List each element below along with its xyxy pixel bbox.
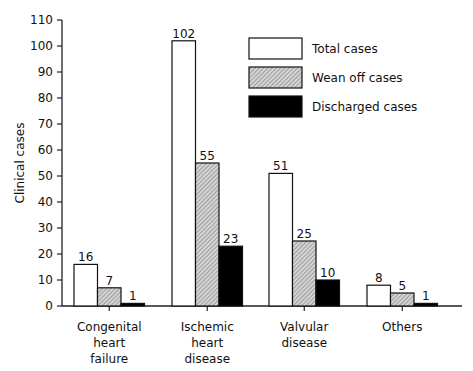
legend-item: Total cases bbox=[249, 38, 378, 59]
category-label: Valvular bbox=[280, 320, 328, 334]
y-tick-label: 10 bbox=[38, 273, 53, 287]
y-axis: 0102030405060708090100110 bbox=[30, 13, 62, 313]
value-label: 10 bbox=[320, 266, 335, 280]
value-label: 23 bbox=[223, 232, 238, 246]
bar-group: 1025523 bbox=[172, 27, 243, 306]
category-label: Others bbox=[382, 320, 422, 334]
y-tick-label: 60 bbox=[38, 143, 53, 157]
value-label: 8 bbox=[375, 271, 383, 285]
bar-wean-off-cases bbox=[391, 293, 415, 306]
legend-item: Discharged cases bbox=[249, 96, 417, 117]
bar-wean-off-cases bbox=[293, 241, 317, 306]
value-label: 16 bbox=[78, 250, 93, 264]
bar-discharged-cases bbox=[219, 246, 243, 306]
category-label: Congenital bbox=[77, 320, 142, 334]
bar-total-cases bbox=[269, 173, 293, 306]
category-label: heart bbox=[191, 336, 223, 350]
bar-total-cases bbox=[172, 41, 196, 306]
y-axis-title: Clinical cases bbox=[13, 123, 27, 204]
category-label: disease bbox=[281, 336, 327, 350]
legend-swatch bbox=[249, 67, 302, 88]
bar-discharged-cases bbox=[414, 303, 438, 306]
bar-total-cases bbox=[74, 264, 98, 306]
y-tick-label: 50 bbox=[38, 169, 53, 183]
y-tick-label: 0 bbox=[45, 299, 53, 313]
legend-label: Total cases bbox=[311, 42, 378, 56]
value-label: 1 bbox=[422, 289, 430, 303]
value-label: 102 bbox=[172, 27, 195, 41]
x-axis: CongenitalheartfailureIschemicheartdisea… bbox=[62, 306, 462, 366]
bar-wean-off-cases bbox=[98, 288, 122, 306]
value-label: 51 bbox=[273, 159, 288, 173]
bar-wean-off-cases bbox=[196, 163, 220, 306]
legend-label: Wean off cases bbox=[312, 71, 403, 85]
bar-total-cases bbox=[367, 285, 391, 306]
category-label: Ischemic bbox=[181, 320, 234, 334]
y-tick-label: 90 bbox=[38, 65, 53, 79]
bar-group: 851 bbox=[367, 271, 438, 306]
y-tick-label: 70 bbox=[38, 117, 53, 131]
y-tick-label: 100 bbox=[30, 39, 53, 53]
legend-item: Wean off cases bbox=[249, 67, 403, 88]
bar-discharged-cases bbox=[121, 303, 145, 306]
category-label: heart bbox=[93, 336, 125, 350]
legend-swatch bbox=[249, 38, 302, 59]
value-label: 25 bbox=[297, 227, 312, 241]
value-label: 5 bbox=[398, 279, 406, 293]
y-tick-label: 40 bbox=[38, 195, 53, 209]
y-tick-label: 20 bbox=[38, 247, 53, 261]
legend: Total casesWean off casesDischarged case… bbox=[249, 38, 417, 117]
bar-discharged-cases bbox=[316, 280, 340, 306]
y-tick-label: 80 bbox=[38, 91, 53, 105]
value-label: 7 bbox=[105, 274, 113, 288]
y-tick-label: 110 bbox=[30, 13, 53, 27]
legend-label: Discharged cases bbox=[312, 100, 417, 114]
y-tick-label: 30 bbox=[38, 221, 53, 235]
legend-swatch bbox=[249, 96, 302, 117]
category-label: failure bbox=[90, 352, 128, 366]
bar-group: 512510 bbox=[269, 159, 340, 306]
bar-group: 1671 bbox=[74, 250, 145, 306]
value-label: 55 bbox=[200, 149, 215, 163]
value-label: 1 bbox=[129, 289, 137, 303]
category-label: disease bbox=[184, 352, 230, 366]
bar-chart: 0102030405060708090100110 Congenitalhear… bbox=[0, 0, 473, 371]
